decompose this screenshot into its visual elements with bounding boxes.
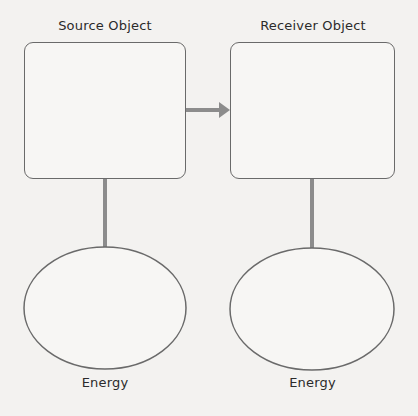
receiver-energy-label: Energy	[230, 375, 395, 390]
receiver-energy-ellipse[interactable]	[230, 248, 394, 370]
source-energy-ellipse[interactable]	[24, 247, 186, 369]
receiver-object-box[interactable]	[230, 42, 395, 179]
source-energy-label: Energy	[24, 375, 186, 390]
transfer-arrow-icon	[186, 102, 230, 118]
source-object-box[interactable]	[24, 42, 186, 179]
